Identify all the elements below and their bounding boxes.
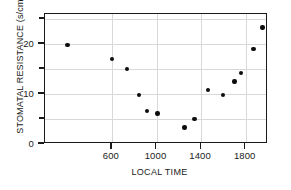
- gridline-horizontal: [45, 19, 266, 20]
- data-point: [182, 125, 186, 129]
- x-tick-mark: [244, 143, 245, 149]
- gridline-horizontal: [45, 44, 266, 45]
- gridline-vertical: [157, 14, 158, 142]
- y-tick-mark: [38, 142, 44, 143]
- x-tick-mark: [155, 143, 156, 149]
- data-point: [251, 47, 255, 51]
- x-tick-mark: [200, 143, 201, 149]
- gridline-vertical: [112, 14, 113, 142]
- y-tick-mark-minor: [39, 17, 44, 18]
- data-point: [145, 109, 149, 113]
- plot-area: [44, 13, 267, 143]
- data-point: [137, 93, 141, 97]
- data-point: [65, 43, 69, 47]
- gridline-horizontal: [45, 69, 266, 70]
- gridline-vertical: [201, 14, 202, 142]
- x-tick-label: 1000: [145, 151, 167, 161]
- y-axis-title: STOMATAL RESISTANCE (s/cm): [15, 0, 25, 140]
- data-point: [232, 79, 236, 83]
- x-tick-label: 1400: [189, 151, 211, 161]
- data-point: [239, 71, 243, 75]
- data-point: [125, 67, 129, 71]
- x-tick-mark: [110, 143, 111, 149]
- x-tick-label: 600: [103, 151, 119, 161]
- data-point: [206, 88, 210, 92]
- x-tick-label: 1800: [234, 151, 256, 161]
- gridline-horizontal: [45, 119, 266, 120]
- data-point: [192, 117, 196, 121]
- data-point: [221, 93, 225, 97]
- gridline-vertical: [246, 14, 247, 142]
- x-axis-title: LOCAL TIME: [0, 167, 291, 177]
- data-point: [110, 57, 114, 61]
- data-point: [260, 25, 264, 29]
- scatter-plot-figure: 01020 600100014001800 STOMATAL RESISTANC…: [0, 0, 291, 190]
- data-point: [155, 111, 159, 115]
- y-tick-label: 0: [29, 139, 34, 149]
- gridline-horizontal: [45, 94, 266, 95]
- y-tick-mark: [38, 92, 44, 93]
- y-tick-mark: [38, 42, 44, 43]
- y-tick-mark-minor: [39, 67, 44, 68]
- y-tick-mark-minor: [39, 117, 44, 118]
